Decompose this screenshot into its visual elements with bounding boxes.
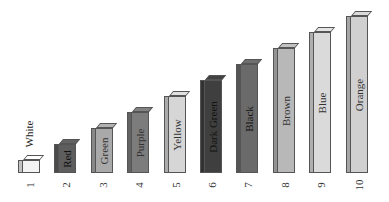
x-tick-label: 2 xyxy=(58,179,74,191)
x-tick-label: 4 xyxy=(131,179,147,191)
bar-5: Yellow xyxy=(164,91,186,173)
x-tick-label: 6 xyxy=(204,179,220,191)
bar-10: Orange xyxy=(346,11,368,173)
bar-label: Orange xyxy=(350,16,368,173)
bar-label: Red xyxy=(58,144,76,173)
bar-label: White xyxy=(16,119,42,149)
x-tick-label: 3 xyxy=(95,179,111,191)
x-tick-label: 7 xyxy=(240,179,256,191)
bar-label: Dark Green xyxy=(204,80,222,173)
bar-9: Blue xyxy=(309,27,331,173)
bar-front-face xyxy=(22,160,40,173)
bar-1 xyxy=(18,155,40,173)
bar-label: Blue xyxy=(313,32,331,173)
bar-label: Black xyxy=(240,64,258,173)
bar-label: Purple xyxy=(131,112,149,173)
x-tick-label: 8 xyxy=(277,179,293,191)
x-tick-label: 9 xyxy=(313,179,329,191)
bar-label: Green xyxy=(95,128,113,173)
bar-7: Black xyxy=(236,59,258,173)
bar-label: Brown xyxy=(277,48,295,173)
bar-6: Dark Green xyxy=(200,75,222,173)
bar-3: Green xyxy=(91,123,113,173)
bar-2: Red xyxy=(54,139,76,173)
bar-4: Purple xyxy=(127,107,149,173)
bar-label: Yellow xyxy=(168,96,186,173)
x-tick-label: 10 xyxy=(350,179,366,191)
x-tick-label: 5 xyxy=(168,179,184,191)
x-tick-label: 1 xyxy=(22,179,38,191)
bar-chart: White1Red2Green3Purple4Yellow5Dark Green… xyxy=(0,0,389,202)
bar-8: Brown xyxy=(273,43,295,173)
